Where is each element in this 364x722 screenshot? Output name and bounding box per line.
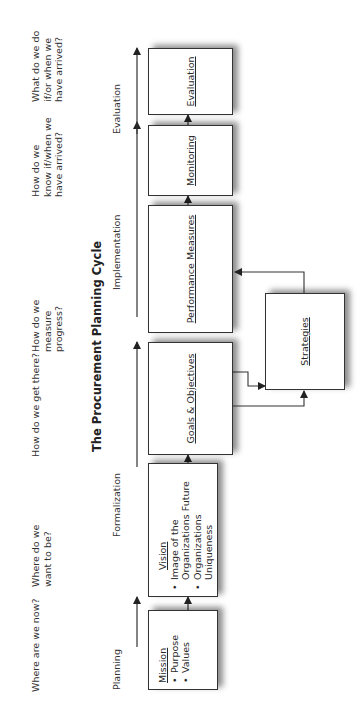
procurement-planning-diagram: Where are we now? Where do we want to be… <box>0 0 364 722</box>
strategies-arrows <box>0 0 364 722</box>
